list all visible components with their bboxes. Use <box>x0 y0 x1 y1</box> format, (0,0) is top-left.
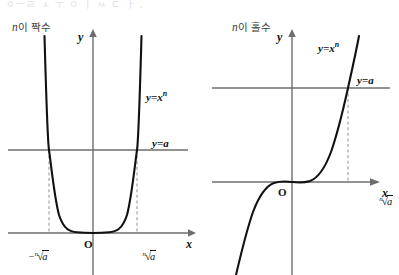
curve-label-even: y=xn <box>146 89 167 103</box>
curve-label-odd-exponent: n <box>335 40 339 49</box>
curve-label-even-exponent: n <box>163 89 167 98</box>
tick-root-index-left-even: n <box>35 250 39 258</box>
curve-label-even-lhs: y=x <box>146 91 163 103</box>
curve-label-odd-lhs: y=x <box>318 42 335 54</box>
figure-canvas <box>0 0 399 275</box>
line-label-odd: y=a <box>357 74 374 86</box>
y-axis-label-even: y <box>78 30 83 45</box>
origin-label-even: O <box>84 238 93 250</box>
x-tick-label-nth-root-a-even: n√a <box>143 250 157 262</box>
x-tick-label-neg-nth-root-a-even: −n√a <box>28 250 49 262</box>
y-axis-label-odd: y <box>277 30 282 45</box>
tick-minus-sign-even: − <box>28 251 35 262</box>
tick-root-index-odd: n <box>379 195 383 203</box>
x-axis-arrow-odd <box>370 178 380 186</box>
panel-even <box>8 29 196 275</box>
x-axis-label-even: x <box>186 237 192 252</box>
origin-label-odd: O <box>278 186 287 198</box>
y-axis-arrow-odd <box>288 29 296 37</box>
line-label-even: y=a <box>152 137 169 149</box>
tick-root-index-right-even: n <box>143 250 147 258</box>
tick-radicand-left-even: a <box>42 250 48 262</box>
x-axis-arrow-even <box>188 229 196 237</box>
panel-odd <box>212 29 390 275</box>
tick-radicand-right-even: a <box>150 250 156 262</box>
tick-radicand-odd: a <box>387 195 393 207</box>
panel-title-even: n이 짝수 <box>12 19 51 34</box>
panel-title-odd: n이 홀수 <box>232 19 271 34</box>
panel-title-odd-text: 이 홀수 <box>238 21 271 33</box>
curve-y-equals-x-pow-n-odd <box>236 36 359 275</box>
curve-label-odd: y=xn <box>318 40 339 54</box>
panel-title-even-text: 이 짝수 <box>18 21 51 33</box>
y-axis-arrow-even <box>89 29 97 37</box>
x-tick-label-nth-root-a-odd: n√a <box>379 195 393 207</box>
